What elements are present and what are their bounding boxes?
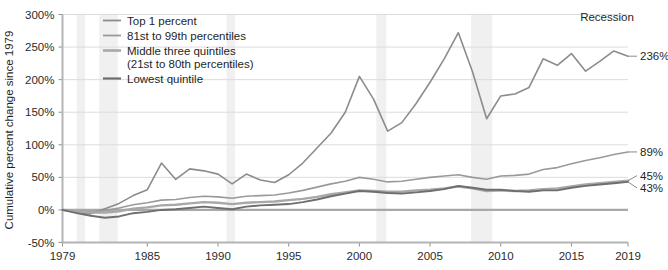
chart-figure: -50%0%50%100%150%200%250%300% 1979198519… (0, 0, 668, 270)
end-label-leader-lowest-quintile (628, 182, 637, 188)
legend-label-81st-to-99th: 81st to 99th percentiles (127, 30, 246, 42)
x-tick-label: 1995 (276, 250, 302, 262)
y-tick-label: 150% (25, 106, 54, 118)
end-label-middle-three-quintiles-21st-to-80th-percentiles: 45% (640, 170, 663, 182)
recession-band (471, 15, 492, 243)
series-line-lowest-quintile (63, 182, 629, 218)
series-line-81st-to-99th-percentiles (63, 152, 629, 212)
x-tick-label: 1979 (50, 250, 76, 262)
legend-label-middle-three-quintiles-sub: (21st to 80th percentiles) (127, 58, 254, 70)
x-tick-label: 2019 (615, 250, 641, 262)
y-tick-label: 0% (38, 204, 55, 216)
recession-annotation: Recession (580, 11, 634, 23)
x-tick-label: 2000 (347, 250, 373, 262)
legend-label-middle-three-quintiles: Middle three quintiles (127, 45, 236, 57)
y-tick-label: -50% (28, 237, 55, 249)
x-tick-label: 2015 (559, 250, 585, 262)
end-label-81st-to-99th-percentiles: 89% (640, 146, 663, 158)
legend-label-lowest-quintile: Lowest quintile (127, 73, 203, 85)
x-tick-label: 2010 (488, 250, 514, 262)
x-axis-tick-group: 197919851990199520002005201020152019 (50, 243, 641, 262)
y-axis-tick-group: -50%0%50%100%150%200%250%300% (25, 9, 62, 249)
end-label-group: 236%89%45%43% (628, 50, 668, 194)
recession-band (376, 15, 386, 243)
y-tick-label: 200% (25, 74, 54, 86)
y-tick-label: 250% (25, 41, 54, 53)
x-tick-label: 2005 (417, 250, 443, 262)
y-tick-label: 50% (31, 171, 54, 183)
chart-canvas: -50%0%50%100%150%200%250%300% 1979198519… (0, 0, 668, 270)
x-tick-label: 1990 (205, 250, 231, 262)
end-label-top-1-percent: 236% (640, 50, 668, 62)
end-label-leader-middle-three-quintiles-21st-to-80th-percentiles (628, 176, 637, 181)
x-tick-label: 1985 (135, 250, 161, 262)
y-tick-label: 100% (25, 139, 54, 151)
y-axis-title: Cumulative percent change since 1979 (3, 31, 15, 230)
y-tick-label: 300% (25, 9, 54, 21)
end-label-lowest-quintile: 43% (640, 182, 663, 194)
legend-label-top-1-percent: Top 1 percent (127, 15, 197, 27)
series-line-middle-three-quintiles-21st-to-80th-percentiles (63, 181, 629, 213)
recession-band (77, 15, 85, 243)
